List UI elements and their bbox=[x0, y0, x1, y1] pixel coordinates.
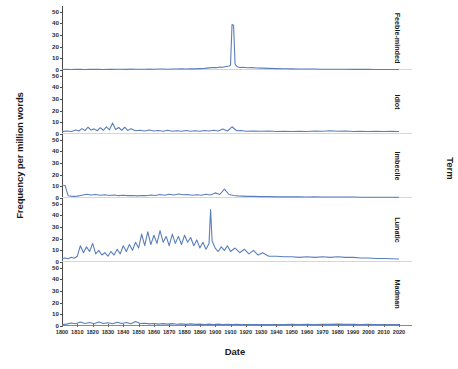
y-tick-label: 10 bbox=[52, 119, 59, 125]
x-tick-label: 1960 bbox=[301, 329, 313, 335]
x-tick-label: 1900 bbox=[209, 329, 221, 335]
x-tick-label: 1870 bbox=[163, 329, 175, 335]
x-tick-label: 1970 bbox=[316, 329, 328, 335]
y-tick-label: 40 bbox=[52, 212, 59, 218]
x-tick-label: 2010 bbox=[377, 329, 389, 335]
y-tick-label: 10 bbox=[52, 247, 59, 253]
facet-strip-label: Lunatic bbox=[393, 199, 402, 261]
y-tick-label: 50 bbox=[52, 9, 59, 15]
y-tick-label: 20 bbox=[52, 172, 59, 178]
facet-strip-label: Idiot bbox=[393, 71, 402, 133]
y-tick-label: 20 bbox=[52, 236, 59, 242]
x-tick-label: 1990 bbox=[347, 329, 359, 335]
x-tick-label: 1830 bbox=[102, 329, 114, 335]
figure-container: Frequency per million words Term 0102030… bbox=[0, 0, 458, 369]
x-tick-mark bbox=[77, 324, 78, 327]
x-tick-mark bbox=[368, 324, 369, 327]
x-tick-mark bbox=[322, 324, 323, 327]
y-tick-label: 30 bbox=[52, 160, 59, 166]
x-tick-mark bbox=[123, 324, 124, 327]
facet-strip-label: Imbecile bbox=[393, 135, 402, 197]
x-tick-label: 1880 bbox=[178, 329, 190, 335]
y-axis-ticks: 01020304050 bbox=[44, 262, 62, 326]
y-axis-ticks: 01020304050 bbox=[44, 70, 62, 134]
x-tick-mark bbox=[200, 324, 201, 327]
x-tick-label: 1920 bbox=[240, 329, 252, 335]
x-tick-label: 1810 bbox=[71, 329, 83, 335]
x-tick-mark bbox=[185, 324, 186, 327]
x-tick-label: 1850 bbox=[132, 329, 144, 335]
x-tick-mark bbox=[108, 324, 109, 327]
x-tick-label: 1980 bbox=[331, 329, 343, 335]
x-tick-label: 1950 bbox=[286, 329, 298, 335]
x-tick-mark bbox=[215, 324, 216, 327]
y-tick-label: 50 bbox=[52, 265, 59, 271]
x-axis: 1800181018201830184018501860187018801890… bbox=[44, 327, 412, 341]
x-tick-label: 1890 bbox=[194, 329, 206, 335]
x-tick-mark bbox=[353, 324, 354, 327]
x-tick-label: 1800 bbox=[56, 329, 68, 335]
x-tick-mark bbox=[139, 324, 140, 327]
y-tick-label: 20 bbox=[52, 300, 59, 306]
y-tick-label: 30 bbox=[52, 96, 59, 102]
x-tick-mark bbox=[338, 324, 339, 327]
x-axis-title: Date bbox=[0, 346, 458, 357]
x-tick-label: 1910 bbox=[224, 329, 236, 335]
y-tick-label: 40 bbox=[52, 84, 59, 90]
x-tick-mark bbox=[154, 324, 155, 327]
series-line-idiot bbox=[62, 70, 399, 134]
y-tick-label: 40 bbox=[52, 276, 59, 282]
y-axis-ticks: 01020304050 bbox=[44, 134, 62, 198]
x-tick-mark bbox=[261, 324, 262, 327]
facet-panel: 01020304050Feeble-minded bbox=[44, 6, 412, 70]
x-tick-mark bbox=[276, 324, 277, 327]
x-tick-mark bbox=[62, 324, 63, 327]
y-tick-label: 30 bbox=[52, 32, 59, 38]
y-axis-ticks: 01020304050 bbox=[44, 198, 62, 262]
facet-strip-label: Madman bbox=[393, 263, 402, 325]
y-tick-label: 30 bbox=[52, 288, 59, 294]
y-tick-label: 30 bbox=[52, 224, 59, 230]
x-tick-mark bbox=[307, 324, 308, 327]
y-tick-label: 50 bbox=[52, 73, 59, 79]
x-tick-label: 1840 bbox=[117, 329, 129, 335]
x-tick-mark bbox=[384, 324, 385, 327]
facet-panel-stack: 01020304050Feeble-minded01020304050Idiot… bbox=[44, 6, 412, 326]
y-tick-label: 50 bbox=[52, 137, 59, 143]
facet-panel: 01020304050Madman bbox=[44, 262, 412, 326]
x-axis-ticks: 1800181018201830184018501860187018801890… bbox=[62, 327, 399, 341]
x-tick-label: 1860 bbox=[148, 329, 160, 335]
x-tick-mark bbox=[169, 324, 170, 327]
series-line-madman bbox=[62, 262, 399, 326]
x-tick-label: 2000 bbox=[362, 329, 374, 335]
facet-panel: 01020304050Idiot bbox=[44, 70, 412, 134]
x-tick-mark bbox=[292, 324, 293, 327]
y-tick-label: 10 bbox=[52, 183, 59, 189]
y-tick-label: 10 bbox=[52, 55, 59, 61]
y-axis-title: Frequency per million words bbox=[14, 71, 25, 241]
y-tick-label: 50 bbox=[52, 201, 59, 207]
x-tick-mark bbox=[246, 324, 247, 327]
x-tick-label: 1820 bbox=[86, 329, 98, 335]
facet-strip-label: Feeble-minded bbox=[393, 7, 402, 69]
x-tick-mark bbox=[93, 324, 94, 327]
x-tick-label: 1930 bbox=[255, 329, 267, 335]
x-tick-mark bbox=[231, 324, 232, 327]
y-tick-label: 20 bbox=[52, 108, 59, 114]
x-tick-label: 1940 bbox=[270, 329, 282, 335]
series-line-lunatic bbox=[62, 198, 399, 262]
series-line-imbecile bbox=[62, 134, 399, 198]
y-tick-label: 10 bbox=[52, 311, 59, 317]
y-tick-label: 20 bbox=[52, 44, 59, 50]
y-tick-label: 40 bbox=[52, 20, 59, 26]
x-tick-mark bbox=[399, 324, 400, 327]
y-tick-label: 40 bbox=[52, 148, 59, 154]
series-line-feeble-minded bbox=[62, 6, 399, 70]
facet-panel: 01020304050Imbecile bbox=[44, 134, 412, 198]
facet-panel: 01020304050Lunatic bbox=[44, 198, 412, 262]
x-tick-label: 2020 bbox=[393, 329, 405, 335]
y-axis-ticks: 01020304050 bbox=[44, 6, 62, 70]
facet-strip-title: Term bbox=[445, 147, 456, 191]
